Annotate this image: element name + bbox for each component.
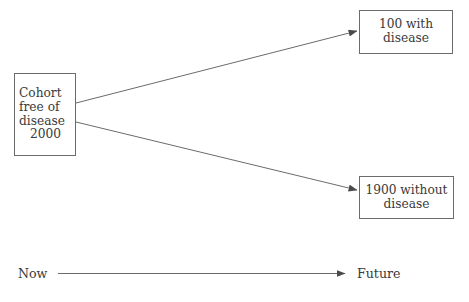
timeline-start-label: Now — [18, 266, 47, 281]
timeline-end-label: Future — [357, 266, 401, 281]
node-cohort-free-of-disease[interactable]: Cohort free of disease 2000 — [14, 73, 76, 156]
node-cohort-line-3: disease — [16, 115, 75, 129]
node-with-disease-line-2: disease — [383, 32, 429, 46]
edge-cohort-to-with-disease — [76, 31, 357, 103]
node-without-disease-line-2: disease — [384, 198, 430, 212]
node-cohort-line-2: free of — [16, 101, 75, 115]
diagram-canvas: Cohort free of disease 2000 100 with dis… — [0, 0, 469, 302]
node-with-disease[interactable]: 100 with disease — [359, 10, 453, 54]
node-without-disease[interactable]: 1900 without disease — [359, 176, 454, 219]
node-cohort-line-4: 2000 — [16, 128, 75, 142]
node-with-disease-line-1: 100 with — [379, 18, 433, 32]
node-without-disease-line-1: 1900 without — [365, 184, 447, 198]
edge-cohort-to-without-disease — [76, 122, 357, 190]
node-cohort-line-1: Cohort — [16, 87, 75, 101]
